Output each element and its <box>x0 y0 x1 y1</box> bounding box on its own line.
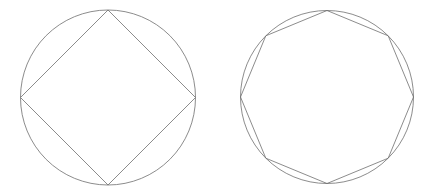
circumscribed-circle-right <box>241 11 414 184</box>
inscribed-square <box>21 10 196 185</box>
inscribed-octagon-panel <box>241 11 414 184</box>
inscribed-octagon <box>241 11 414 184</box>
figure-canvas <box>0 0 438 192</box>
circumscribed-circle-left <box>21 10 196 185</box>
inscribed-square-panel <box>21 10 196 185</box>
geometry-figure <box>0 0 438 192</box>
